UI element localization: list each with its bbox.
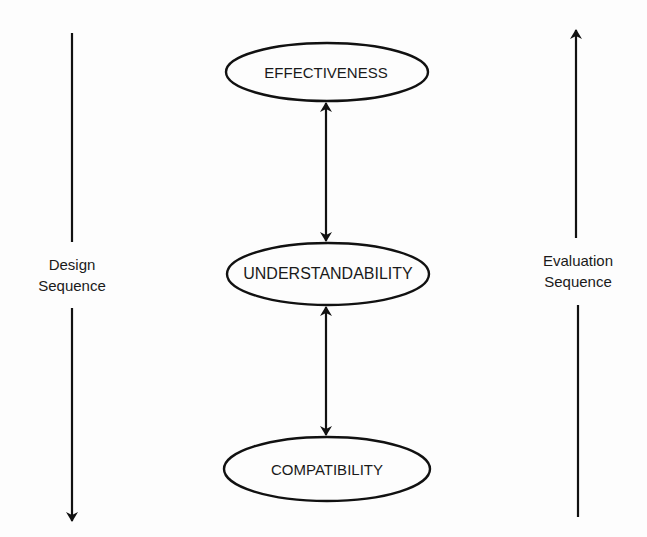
evaluation-sequence-label-line2: Sequence <box>543 271 613 292</box>
understandability-node-label: UNDERSTANDABILITY <box>243 265 413 283</box>
evaluation-sequence-label: Evaluation Sequence <box>543 250 613 292</box>
design-sequence-label-line1: Design <box>38 254 106 275</box>
compatibility-node-label: COMPATIBILITY <box>271 461 383 478</box>
effectiveness-node-label: EFFECTIVENESS <box>264 64 387 81</box>
design-sequence-label: Design Sequence <box>38 254 106 296</box>
design-sequence-label-line2: Sequence <box>38 275 106 296</box>
evaluation-sequence-label-line1: Evaluation <box>543 250 613 271</box>
diagram-canvas: EFFECTIVENESS UNDERSTANDABILITY COMPATIB… <box>0 0 647 537</box>
